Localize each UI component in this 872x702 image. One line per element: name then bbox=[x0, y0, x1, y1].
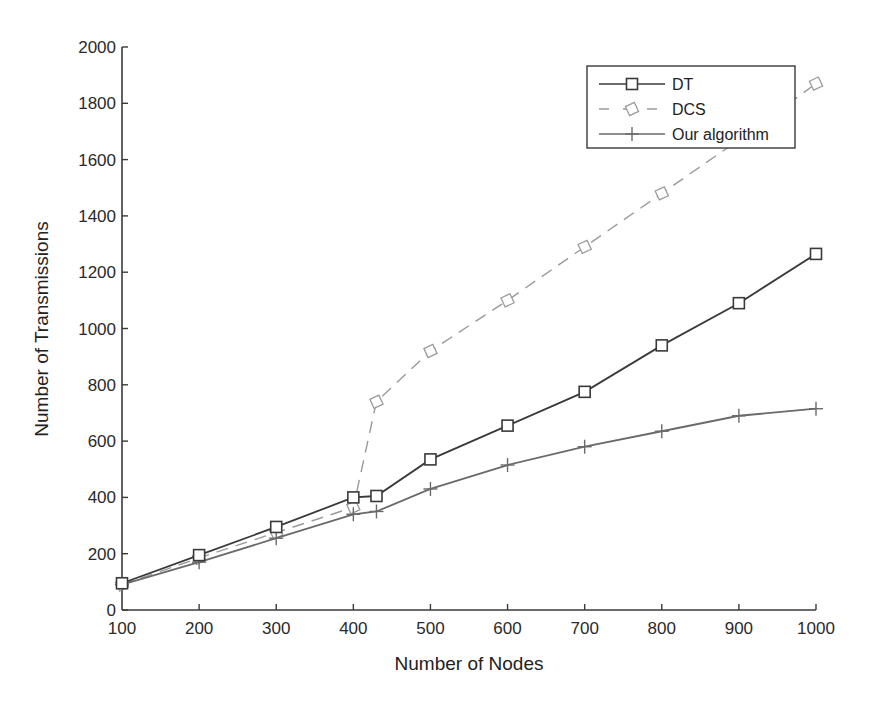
x-tick-label: 200 bbox=[185, 619, 213, 638]
legend-marker bbox=[627, 79, 638, 90]
x-tick-label: 1000 bbox=[797, 619, 835, 638]
data-point-dcs bbox=[807, 75, 825, 93]
y-tick-label: 600 bbox=[88, 432, 116, 451]
data-point-dt bbox=[656, 340, 667, 351]
x-tick-label: 400 bbox=[339, 619, 367, 638]
x-tick-label: 500 bbox=[416, 619, 444, 638]
data-point-dt bbox=[348, 492, 359, 503]
series-our-algorithm bbox=[115, 402, 823, 592]
legend-label: Our algorithm bbox=[672, 126, 769, 143]
data-point-our-algorithm bbox=[655, 424, 669, 438]
data-point-dcs bbox=[576, 238, 594, 256]
data-point-our-algorithm bbox=[578, 440, 592, 454]
y-tick-label: 1000 bbox=[78, 320, 116, 339]
series-line-dcs bbox=[122, 84, 816, 585]
y-tick-label: 800 bbox=[88, 376, 116, 395]
series-dcs bbox=[113, 75, 825, 594]
data-point-dcs bbox=[421, 342, 439, 360]
data-point-dt bbox=[117, 578, 128, 589]
y-tick-label: 1200 bbox=[78, 263, 116, 282]
legend: DTDCSOur algorithm bbox=[587, 66, 795, 148]
series-line-our-algorithm bbox=[122, 409, 816, 585]
line-chart: 0200400600800100012001400160018002000100… bbox=[0, 0, 872, 702]
x-tick-label: 100 bbox=[108, 619, 136, 638]
legend-label: DT bbox=[672, 76, 694, 93]
x-tick-label: 700 bbox=[570, 619, 598, 638]
y-axis-title: Number of Transmissions bbox=[31, 221, 52, 436]
data-point-our-algorithm bbox=[423, 482, 437, 496]
data-point-dt bbox=[194, 550, 205, 561]
data-point-dcs bbox=[499, 291, 517, 309]
x-tick-label: 900 bbox=[725, 619, 753, 638]
data-point-our-algorithm bbox=[809, 402, 823, 416]
data-point-dt bbox=[425, 454, 436, 465]
data-point-dcs bbox=[653, 184, 671, 202]
data-point-dt bbox=[371, 490, 382, 501]
x-axis-title: Number of Nodes bbox=[395, 653, 544, 674]
y-tick-label: 0 bbox=[107, 601, 116, 620]
data-point-dt bbox=[811, 248, 822, 259]
series-layer bbox=[113, 75, 825, 594]
y-tick-label: 200 bbox=[88, 545, 116, 564]
data-point-dt bbox=[579, 386, 590, 397]
y-tick-label: 1800 bbox=[78, 94, 116, 113]
x-tick-label: 800 bbox=[648, 619, 676, 638]
series-line-dt bbox=[122, 254, 816, 583]
data-point-our-algorithm bbox=[732, 409, 746, 423]
y-tick-label: 2000 bbox=[78, 38, 116, 57]
data-point-dt bbox=[733, 298, 744, 309]
y-tick-label: 400 bbox=[88, 488, 116, 507]
y-tick-label: 1400 bbox=[78, 207, 116, 226]
x-tick-label: 300 bbox=[262, 619, 290, 638]
data-point-our-algorithm bbox=[501, 458, 515, 472]
data-point-dt bbox=[271, 521, 282, 532]
data-point-our-algorithm bbox=[369, 504, 383, 518]
legend-label: DCS bbox=[672, 101, 706, 118]
series-dt bbox=[117, 248, 822, 588]
data-point-dt bbox=[502, 420, 513, 431]
x-tick-label: 600 bbox=[493, 619, 521, 638]
y-tick-label: 1600 bbox=[78, 151, 116, 170]
